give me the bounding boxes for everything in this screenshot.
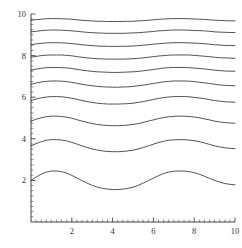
chart-svg: 246810 246810 [0, 0, 242, 248]
curves-group [31, 19, 235, 190]
y-tick-label: 8 [22, 51, 26, 61]
y-axis-tick-labels: 246810 [18, 9, 27, 185]
x-axis-major-ticks [72, 218, 235, 223]
curve-curve-3 [31, 116, 235, 126]
x-axis-tick-labels: 246810 [70, 226, 240, 236]
y-tick-label: 2 [22, 175, 26, 185]
curve-curve-5 [31, 81, 235, 87]
x-tick-label: 8 [192, 226, 196, 236]
x-tick-label: 6 [151, 226, 155, 236]
curve-curve-7 [31, 55, 235, 59]
curve-curve-2 [31, 140, 235, 152]
y-tick-label: 10 [18, 9, 27, 19]
x-tick-label: 2 [70, 226, 74, 236]
y-tick-label: 6 [22, 92, 26, 102]
x-tick-label: 10 [231, 226, 240, 236]
curve-curve-10 [31, 19, 235, 22]
y-axis-major-ticks [31, 14, 36, 180]
chart-plot-area: 246810 246810 [0, 0, 242, 248]
curve-curve-1 [31, 171, 235, 190]
curve-curve-6 [31, 67, 235, 72]
curve-curve-4 [31, 97, 235, 104]
curve-curve-8 [31, 43, 235, 47]
y-tick-label: 4 [22, 134, 27, 144]
curve-curve-9 [31, 30, 235, 33]
x-tick-label: 4 [110, 226, 115, 236]
